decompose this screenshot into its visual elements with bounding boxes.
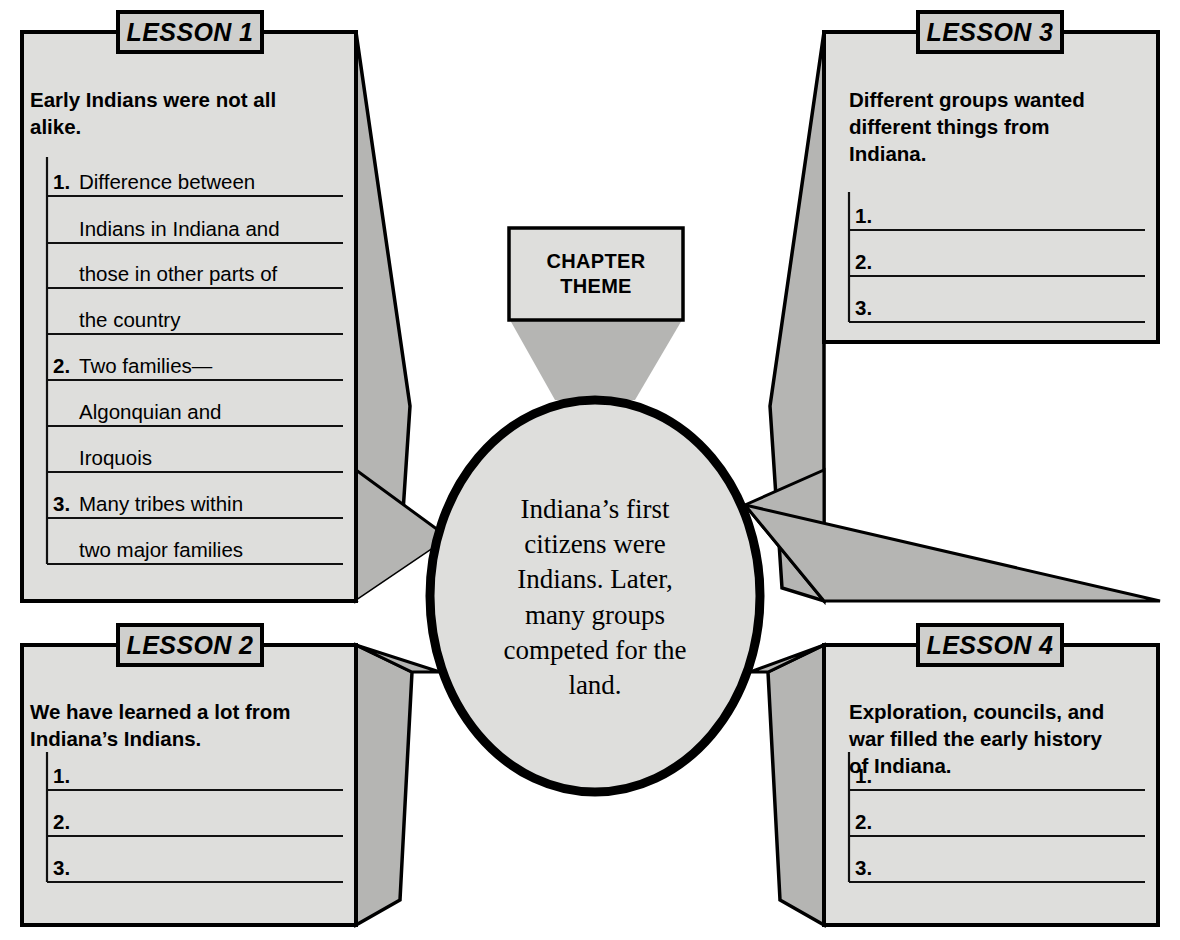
summary-line: Indians. Later, bbox=[517, 562, 673, 597]
lesson1-item-1-number: 1. bbox=[53, 172, 79, 193]
summary-line: competed for the bbox=[504, 633, 687, 668]
lesson1-item-3-number: 3. bbox=[53, 494, 79, 515]
lesson3-item-3-number: 3. bbox=[855, 298, 881, 319]
lesson4-item-3[interactable]: 3. bbox=[855, 858, 881, 879]
chapter-theme-label: CHAPTER THEME bbox=[509, 228, 683, 320]
lesson2-item-3[interactable]: 3. bbox=[53, 858, 79, 879]
lesson1-item-1-text: Difference between bbox=[79, 170, 255, 193]
lesson1-tab-label: LESSON 1 bbox=[118, 12, 262, 52]
lesson2-item-2[interactable]: 2. bbox=[53, 812, 79, 833]
lesson3-item-3[interactable]: 3. bbox=[855, 298, 881, 319]
lesson3-panel[interactable] bbox=[824, 32, 1158, 342]
lesson3-heading: Different groups wanted different things… bbox=[849, 86, 1149, 167]
summary-line: many groups bbox=[525, 598, 665, 633]
lesson1-item-1-text-cont: those in other parts of bbox=[79, 262, 277, 285]
lesson1-item-1-cont[interactable]: the country bbox=[53, 310, 180, 331]
graphic-organizer-page: LESSON 1 LESSON 2 LESSON 3 LESSON 4 Earl… bbox=[0, 0, 1180, 940]
lesson4-item-1[interactable]: 1. bbox=[855, 766, 881, 787]
lesson3-item-2-number: 2. bbox=[855, 252, 881, 273]
lesson3-item-1[interactable]: 1. bbox=[855, 206, 881, 227]
summary-line: Indiana’s first bbox=[520, 492, 669, 527]
lesson4-shadow-panel bbox=[768, 645, 824, 925]
lesson4-item-3-number: 3. bbox=[855, 858, 881, 879]
lesson1-item-2-text-cont: Iroquois bbox=[79, 446, 152, 469]
lesson2-item-2-number: 2. bbox=[53, 812, 79, 833]
lesson1-item-1-text-cont: the country bbox=[79, 308, 180, 331]
chapter-theme-line-1: CHAPTER bbox=[547, 249, 646, 274]
lesson1-heading: Early Indians were not all alike. bbox=[30, 86, 335, 140]
lesson4-heading-line: of Indiana. bbox=[849, 752, 1159, 779]
lesson1-item-3[interactable]: 3.Many tribes within bbox=[53, 494, 243, 515]
lesson1-item-2-cont[interactable]: Iroquois bbox=[53, 448, 152, 469]
lesson2-item-1[interactable]: 1. bbox=[53, 766, 79, 787]
lesson4-heading-line: Exploration, councils, and bbox=[849, 698, 1159, 725]
lesson1-item-2-cont[interactable]: Algonquian and bbox=[53, 402, 222, 423]
lesson2-heading-line: We have learned a lot from bbox=[30, 698, 340, 725]
lesson4-tab-label: LESSON 4 bbox=[918, 625, 1062, 665]
theme-funnel bbox=[510, 320, 682, 400]
lesson2-heading-line: Indiana’s Indians. bbox=[30, 725, 340, 752]
lesson3-item-2[interactable]: 2. bbox=[855, 252, 881, 273]
lesson4-item-2[interactable]: 2. bbox=[855, 812, 881, 833]
lesson1-item-1-text-cont: Indians in Indiana and bbox=[79, 217, 280, 240]
lesson3-heading-line: different things from bbox=[849, 113, 1149, 140]
lesson1-item-2-text: Two families— bbox=[79, 354, 212, 377]
summary-line: citizens were bbox=[524, 527, 666, 562]
lesson1-item-2-text-cont: Algonquian and bbox=[79, 400, 222, 423]
lesson2-heading: We have learned a lot from Indiana’s Ind… bbox=[30, 698, 340, 752]
chapter-theme-line-2: THEME bbox=[560, 274, 632, 299]
summary-line: land. bbox=[568, 668, 621, 703]
lesson2-item-3-number: 3. bbox=[53, 858, 79, 879]
lesson1-item-3-text-cont: two major families bbox=[79, 538, 243, 561]
lesson1-item-1-cont[interactable]: those in other parts of bbox=[53, 264, 277, 285]
lesson1-item-2[interactable]: 2.Two families— bbox=[53, 356, 212, 377]
lesson4-item-2-number: 2. bbox=[855, 812, 881, 833]
center-summary-text: Indiana’s first citizens were Indians. L… bbox=[440, 490, 750, 705]
lesson2-shadow-panel bbox=[356, 645, 412, 925]
lesson3-item-1-number: 1. bbox=[855, 206, 881, 227]
lesson2-item-1-number: 1. bbox=[53, 766, 79, 787]
lesson4-heading: Exploration, councils, and war filled th… bbox=[849, 698, 1159, 779]
lesson1-item-1[interactable]: 1.Difference between bbox=[53, 172, 255, 193]
lesson1-item-2-number: 2. bbox=[53, 356, 79, 377]
lesson1-heading-line: Early Indians were not all bbox=[30, 86, 335, 113]
lesson4-item-1-number: 1. bbox=[855, 766, 881, 787]
lesson3-heading-line: Different groups wanted bbox=[849, 86, 1149, 113]
lesson3-tab-label: LESSON 3 bbox=[918, 12, 1062, 52]
lesson2-tab-label: LESSON 2 bbox=[118, 625, 262, 665]
lesson1-item-3-text: Many tribes within bbox=[79, 492, 243, 515]
lesson3-heading-line: Indiana. bbox=[849, 140, 1149, 167]
lesson1-heading-line: alike. bbox=[30, 113, 335, 140]
lesson4-heading-line: war filled the early history bbox=[849, 725, 1159, 752]
lesson1-item-3-cont[interactable]: two major families bbox=[53, 540, 243, 561]
lesson1-item-1-cont[interactable]: Indians in Indiana and bbox=[53, 219, 280, 240]
